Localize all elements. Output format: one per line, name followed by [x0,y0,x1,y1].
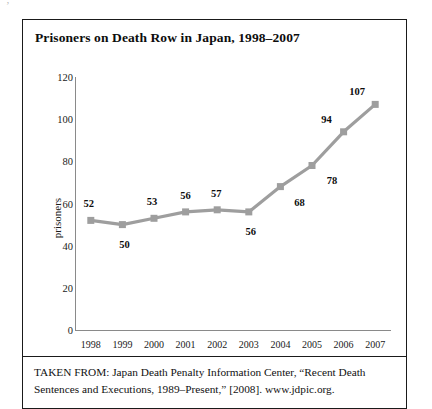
figure-box: Prisoners on Death Row in Japan, 1998–20… [22,19,407,409]
data-point-marker [340,128,347,135]
data-point-marker [309,162,316,169]
data-point-label: 56 [180,189,191,200]
data-point-label: 78 [327,174,338,185]
x-tick-label: 2001 [176,339,196,350]
x-tick-label: 2002 [207,339,227,350]
data-point-marker [182,208,189,215]
data-point-label: 50 [119,238,130,249]
data-point-marker [119,221,126,228]
source-note: TAKEN FROM: Japan Death Penalty Informat… [34,364,398,397]
data-point-label: 56 [246,225,257,236]
series-polyline [91,104,375,224]
x-tick-label: 2003 [239,339,259,350]
data-point-label: 94 [321,113,332,124]
figure-title: Prisoners on Death Row in Japan, 1998–20… [35,30,300,46]
data-point-marker [245,208,252,215]
scan-speck: ’ [6,0,16,10]
line-series [23,58,408,358]
data-point-label: 57 [211,187,222,198]
data-point-label: 107 [349,86,365,97]
data-point-label: 52 [84,198,95,209]
x-tick-label: 2004 [270,339,290,350]
data-point-marker [87,217,94,224]
data-point-marker [151,215,158,222]
chart-plot-area: prisoners 020406080100120 52505356575668… [23,58,408,358]
x-tick-label: 2000 [144,339,164,350]
x-tick-label: 1998 [81,339,101,350]
data-point-marker [214,206,221,213]
x-tick-label: 1999 [112,339,132,350]
data-point-label: 68 [294,196,305,207]
source-separator [23,356,406,357]
x-axis-tick-labels: 1998199920002001200220032004200520062007 [23,339,408,355]
series-markers [87,101,378,228]
x-tick-label: 2007 [365,339,385,350]
x-tick-label: 2005 [302,339,322,350]
x-tick-label: 2006 [334,339,354,350]
data-point-marker [277,183,284,190]
data-point-label: 53 [147,196,158,207]
data-point-marker [372,101,379,108]
